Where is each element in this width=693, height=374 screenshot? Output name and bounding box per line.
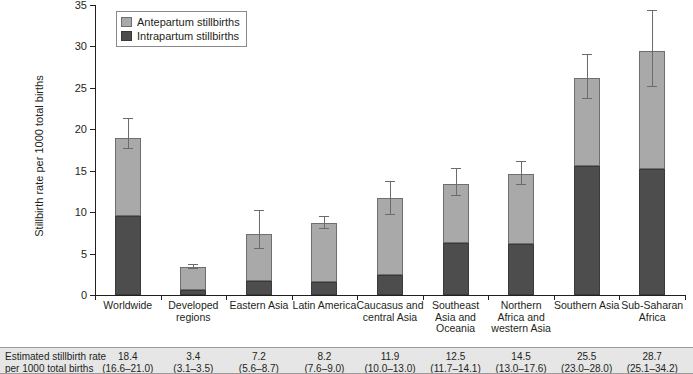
- table-row-label-line2: per 1000 total births: [5, 363, 93, 374]
- table-cell-value: 3.4: [157, 351, 231, 363]
- error-bar-cap-upper: [319, 216, 329, 217]
- category-label-sub-saharan-africa: Sub-SaharanAfrica: [615, 300, 689, 323]
- bar-segment-intrapartum: [246, 281, 272, 295]
- bar-segment-intrapartum: [639, 169, 665, 295]
- category-label-worldwide: Worldwide: [91, 300, 165, 312]
- bar-sub-saharan-africa: [639, 5, 665, 295]
- category-label-developed-regions: Developedregions: [157, 300, 231, 323]
- legend-item-antepartum: Antepartum stillbirths: [121, 15, 240, 29]
- error-bar-cap-lower: [647, 86, 657, 87]
- bar-caucasus-and-central-asia: [377, 5, 403, 295]
- error-bar-cap-lower: [582, 98, 592, 99]
- category-label-line: Eastern Asia: [229, 299, 288, 311]
- y-tick-label: 5: [81, 248, 87, 260]
- error-bar-cap-lower: [385, 214, 395, 215]
- error-bar-cap-upper: [385, 181, 395, 182]
- chart-legend: Antepartum stillbirths Intrapartum still…: [116, 11, 247, 47]
- y-tick-mark: [90, 46, 95, 47]
- y-tick-label: 15: [75, 165, 87, 177]
- category-label-line: Oceania: [436, 322, 475, 334]
- error-bar-cap-upper: [254, 210, 264, 211]
- bar-segment-antepartum: [311, 223, 337, 282]
- bar-segment-antepartum: [115, 138, 141, 217]
- table-cell-confidence-interval: (11.7–14.1): [419, 363, 493, 374]
- bar-segment-intrapartum: [115, 216, 141, 295]
- x-axis-line: [95, 295, 685, 296]
- y-tick-label: 25: [75, 82, 87, 94]
- table-cell-confidence-interval: (7.6–9.0): [288, 363, 362, 374]
- table-cell-value: 18.4: [91, 351, 165, 363]
- category-label-line: Africa and: [497, 311, 544, 323]
- stillbirth-rate-chart: Stillbirth rate per 1000 total births 05…: [0, 0, 693, 374]
- error-bar: [390, 182, 391, 216]
- table-cell-confidence-interval: (3.1–3.5): [157, 363, 231, 374]
- table-cell-value: 28.7: [615, 351, 689, 363]
- y-tick-label: 30: [75, 40, 87, 52]
- table-cell-eastern-asia: 7.2(5.6–8.7): [222, 351, 296, 374]
- y-tick-mark: [90, 212, 95, 213]
- error-bar-cap-lower: [516, 184, 526, 185]
- error-bar-cap-upper: [188, 264, 198, 265]
- category-label-line: Southern Asia: [554, 299, 619, 311]
- error-bar: [652, 11, 653, 87]
- bar-latin-america: [311, 5, 337, 295]
- error-bar: [128, 119, 129, 149]
- table-cell-confidence-interval: (23.0–28.0): [550, 363, 624, 374]
- legend-swatch-icon-antepartum: [121, 17, 132, 27]
- bar-segment-intrapartum: [574, 166, 600, 295]
- table-cell-southeast-asia-and-oceania: 12.5(11.7–14.1): [419, 351, 493, 374]
- y-tick-label: 0: [81, 289, 87, 301]
- table-cell-value: 8.2: [288, 351, 362, 363]
- category-label-latin-america: Latin America: [288, 300, 362, 312]
- legend-label-antepartum: Antepartum stillbirths: [137, 16, 240, 28]
- error-bar-cap-upper: [582, 54, 592, 55]
- table-cell-southern-asia: 25.5(23.0–28.0): [550, 351, 624, 374]
- table-cell-developed-regions: 3.4(3.1–3.5): [157, 351, 231, 374]
- y-tick-label: 20: [75, 123, 87, 135]
- table-cell-caucasus-and-central-asia: 11.9(10.0–13.0): [353, 351, 427, 374]
- plot-area: 05101520253035: [95, 5, 685, 295]
- bar-worldwide: [115, 5, 141, 295]
- category-label-line: Worldwide: [103, 299, 152, 311]
- error-bar-cap-lower: [319, 228, 329, 229]
- table-cell-latin-america: 8.2(7.6–9.0): [288, 351, 362, 374]
- legend-item-intrapartum: Intrapartum stillbirths: [121, 29, 240, 43]
- table-cell-value: 14.5: [484, 351, 558, 363]
- category-label-eastern-asia: Eastern Asia: [222, 300, 296, 312]
- category-label-line: Northern: [501, 299, 542, 311]
- category-label-line: central Asia: [363, 311, 417, 323]
- category-label-line: regions: [176, 311, 210, 323]
- data-table: Estimated stillbirth rate per 1000 total…: [0, 347, 693, 374]
- bar-southeast-asia-and-oceania: [443, 5, 469, 295]
- bar-northern-africa-and-western-asia: [508, 5, 534, 295]
- table-cell-value: 11.9: [353, 351, 427, 363]
- table-cell-confidence-interval: (16.6–21.0): [91, 363, 165, 374]
- error-bar-cap-upper: [123, 118, 133, 119]
- error-bar-cap-lower: [188, 268, 198, 269]
- table-cell-value: 12.5: [419, 351, 493, 363]
- category-label-line: Southeast: [432, 299, 479, 311]
- bar-segment-antepartum: [180, 267, 206, 290]
- error-bar-cap-upper: [516, 161, 526, 162]
- bar-southern-asia: [574, 5, 600, 295]
- bar-segment-intrapartum: [377, 275, 403, 295]
- legend-label-intrapartum: Intrapartum stillbirths: [137, 30, 239, 42]
- table-cell-northern-africa-and-western-asia: 14.5(13.0–17.6): [484, 351, 558, 374]
- error-bar-cap-lower: [451, 195, 461, 196]
- y-tick-label: 10: [75, 206, 87, 218]
- table-cell-worldwide: 18.4(16.6–21.0): [91, 351, 165, 374]
- bar-segment-intrapartum: [443, 243, 469, 295]
- category-label-caucasus-and-central-asia: Caucasus andcentral Asia: [353, 300, 427, 323]
- table-cell-confidence-interval: (25.1–34.2): [615, 363, 689, 374]
- error-bar: [456, 169, 457, 196]
- category-label-line: Africa: [639, 311, 666, 323]
- bar-segment-intrapartum: [508, 244, 534, 295]
- y-axis-line: [95, 5, 96, 296]
- category-label-southern-asia: Southern Asia: [550, 300, 624, 312]
- error-bar-cap-lower: [254, 248, 264, 249]
- error-bar-cap-lower: [123, 148, 133, 149]
- x-axis-category-labels: WorldwideDevelopedregionsEastern AsiaLat…: [95, 300, 685, 344]
- error-bar: [259, 211, 260, 250]
- category-label-line: Sub-Saharan: [621, 299, 683, 311]
- bar-segment-intrapartum: [180, 290, 206, 295]
